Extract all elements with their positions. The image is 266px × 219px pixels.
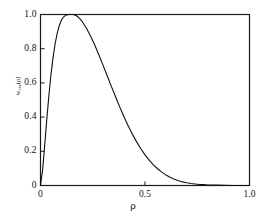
x-tick-label: 0.5 [130,189,160,199]
y-axis-label-prefix: w [14,91,21,96]
y-axis-label: wcav(ρ) [14,56,22,116]
x-axis-label: ρ [0,199,266,211]
chart-figure: 00.20.40.60.81.0 00.51.0 ρ wcav(ρ) [0,0,266,219]
y-tick-label: 1.0 [13,9,37,19]
plot-frame [41,15,250,186]
plot-canvas [0,0,266,219]
y-tick-label: 0.2 [13,145,37,155]
x-tick-label: 1.0 [235,189,265,199]
x-tick-label: 0 [26,189,56,199]
y-axis-label-suffix: (ρ) [14,77,21,85]
y-tick-label: 0.8 [13,43,37,53]
y-axis-label-subscript: cav [17,84,22,90]
